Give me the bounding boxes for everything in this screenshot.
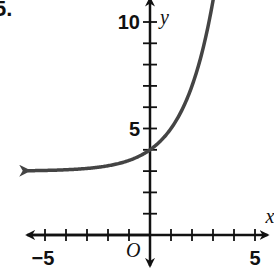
y-tick-label: 5 xyxy=(129,118,140,140)
y-tick-label: 10 xyxy=(118,11,140,33)
x-tick-label: −5 xyxy=(32,247,55,269)
x-axis-label: x xyxy=(265,205,275,227)
axis-labels: −55510xyO xyxy=(32,6,274,269)
exponential-graph: −55510xyO xyxy=(0,0,274,270)
origin-label: O xyxy=(126,239,140,261)
x-tick-label: 5 xyxy=(249,247,260,269)
y-axis-label: y xyxy=(158,6,169,29)
axes xyxy=(27,0,267,266)
